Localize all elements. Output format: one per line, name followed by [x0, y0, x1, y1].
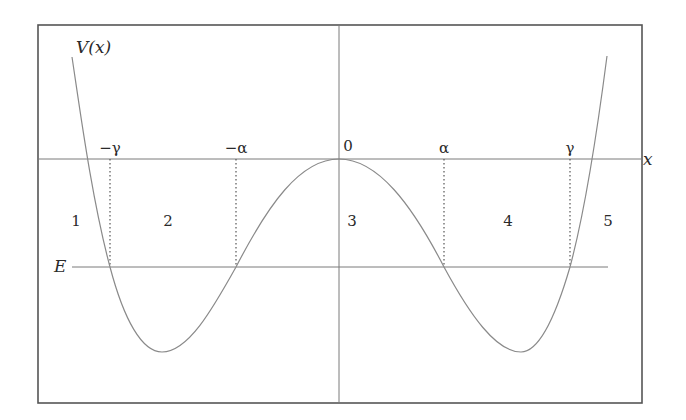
potential-diagram: V(x) x E −γ −α 0 α γ 1 2 3 4 5	[0, 0, 686, 420]
tick-label-gamma: γ	[566, 139, 575, 157]
region-label-4: 4	[503, 212, 513, 230]
energy-label: E	[53, 256, 67, 276]
x-axis-label: x	[643, 149, 653, 169]
tick-label-minus-alpha: −α	[225, 139, 248, 157]
region-label-3: 3	[347, 212, 357, 230]
tick-label-zero: 0	[343, 137, 353, 155]
tick-label-alpha: α	[439, 139, 449, 157]
region-label-1: 1	[71, 212, 81, 230]
tick-label-minus-gamma: −γ	[99, 139, 121, 157]
y-axis-label: V(x)	[76, 37, 111, 57]
region-label-2: 2	[163, 212, 173, 230]
region-label-5: 5	[603, 212, 613, 230]
turning-point-lines	[110, 159, 570, 267]
plot-frame	[38, 25, 642, 403]
